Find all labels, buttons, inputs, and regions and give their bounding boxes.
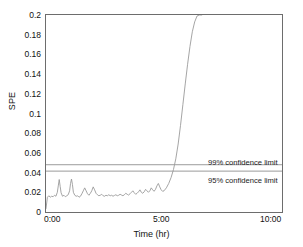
x-tick-label: 10:00 xyxy=(260,215,281,224)
data-series-line xyxy=(46,15,202,209)
x-tick-label: 5:00 xyxy=(153,215,170,224)
x-axis-title: Time (hr) xyxy=(0,229,303,239)
annotation-95-confidence-limit: 95% confidence limit xyxy=(208,177,278,185)
y-tick-text: 0.04 xyxy=(24,169,41,178)
y-tick-text: 0.06 xyxy=(24,149,41,158)
annotation-99-confidence-limit: 99% confidence limit xyxy=(208,159,278,167)
y-tick-text: 0.14 xyxy=(24,70,41,79)
y-tick-text: 0.1 xyxy=(29,110,41,119)
y-axis-title: SPE xyxy=(7,81,17,121)
y-tick-text: 0.2 xyxy=(29,11,41,20)
x-tick-label: 0:00 xyxy=(44,215,61,224)
data-series-group xyxy=(46,15,202,209)
y-tick-text: 0.02 xyxy=(24,188,41,197)
spe-chart-figure: SPE Time (hr) 00.020.040.060.080.10.120.… xyxy=(0,0,303,247)
y-tick-text: 0.08 xyxy=(24,129,41,138)
y-tick-text: 0.16 xyxy=(24,50,41,59)
y-tick-text: 0 xyxy=(36,208,41,217)
y-tick-text: 0.12 xyxy=(24,90,41,99)
y-tick-text: 0.18 xyxy=(24,31,41,40)
